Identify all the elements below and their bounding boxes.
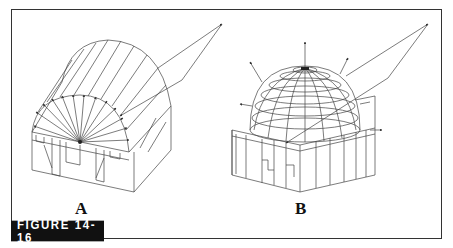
panel-b-drawing [232,24,428,192]
figure-number-tag: FIGURE 14-16 [11,221,104,242]
figure-illustration [0,0,453,248]
panel-a-drawing [32,24,222,192]
panel-label-a: A [75,199,87,219]
panel-label-b: B [295,199,306,219]
